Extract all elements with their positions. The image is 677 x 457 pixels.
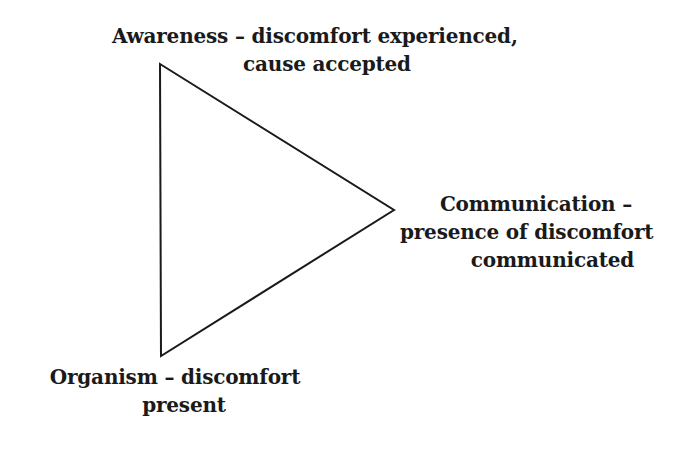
communication-label-line3: communicated (400, 246, 640, 274)
triangle-diagram: Awareness – discomfort experienced, caus… (0, 0, 677, 457)
communication-label-line1: Communication – (400, 190, 640, 218)
awareness-label-line2: cause accepted (112, 50, 452, 78)
organism-label-line2: present (30, 391, 320, 419)
awareness-label: Awareness – discomfort experienced, caus… (112, 22, 452, 78)
organism-label-line1: Organism – discomfort (30, 363, 320, 391)
communication-label: Communication – presence of discomfort c… (400, 190, 640, 274)
awareness-label-line1: Awareness – discomfort experienced, (112, 22, 452, 50)
communication-label-line2: presence of discomfort (400, 218, 640, 246)
organism-label: Organism – discomfort present (30, 363, 320, 419)
